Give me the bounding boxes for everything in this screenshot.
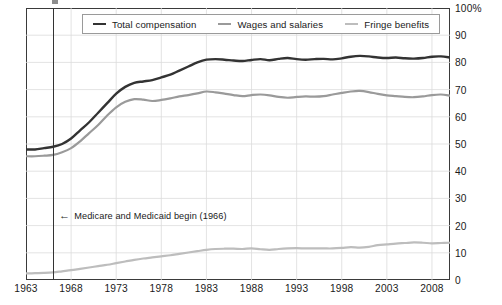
chart-container: ← Medicare and Medicaid begin (1966) Tot… (0, 0, 502, 305)
y-axis-tick-label: 20 (455, 220, 467, 231)
y-axis-tick-labels: 100%9080706050403020100 (455, 0, 502, 305)
annotation-label: Medicare and Medicaid begin (1966) (74, 211, 227, 221)
y-axis-tick-label: 70 (455, 84, 467, 95)
legend-swatch-icon (345, 23, 358, 25)
x-axis-tick-label: 1988 (240, 283, 263, 294)
y-axis-tick-label: 60 (455, 111, 467, 122)
y-axis-tick-label: 30 (455, 193, 467, 204)
y-axis-tick-label: 10 (455, 247, 467, 258)
x-axis-tick-label: 2008 (420, 283, 443, 294)
medicare-medicaid-marker-line (53, 8, 54, 280)
x-axis-tick-label: 1978 (150, 283, 173, 294)
y-axis-tick-label: 100% (455, 3, 482, 14)
legend-label: Fringe benefits (364, 19, 429, 30)
x-axis-tick-label: 1983 (195, 283, 218, 294)
y-axis-tick-label: 90 (455, 30, 467, 41)
legend-item-total-compensation[interactable]: Total compensation (93, 19, 196, 30)
y-axis-tick-label: 40 (455, 166, 467, 177)
legend-label: Total compensation (112, 19, 196, 30)
legend-swatch-icon (93, 23, 106, 25)
medicare-medicaid-annotation: ← Medicare and Medicaid begin (1966) (59, 210, 227, 221)
legend-label: Wages and salaries (237, 19, 323, 30)
x-axis-tick-label: 2003 (375, 283, 398, 294)
chart-legend: Total compensation Wages and salaries Fr… (82, 14, 440, 34)
y-axis-tick-label: 0 (455, 275, 461, 286)
legend-item-fringe-benefits[interactable]: Fringe benefits (345, 19, 429, 30)
left-arrow-icon: ← (59, 210, 70, 221)
y-axis-tick-label: 80 (455, 57, 467, 68)
plot-area-frame (26, 8, 450, 280)
legend-item-wages-and-salaries[interactable]: Wages and salaries (218, 19, 323, 30)
x-axis-tick-labels: 1963196819731978198319881993199820032008 (0, 283, 502, 303)
x-axis-tick-label: 1963 (14, 283, 37, 294)
x-axis-tick-label: 1973 (104, 283, 127, 294)
x-axis-tick-label: 1968 (59, 283, 82, 294)
x-axis-tick-label: 1993 (285, 283, 308, 294)
top-crop-artifact (52, 0, 58, 4)
legend-swatch-icon (218, 23, 231, 25)
y-axis-tick-label: 50 (455, 139, 467, 150)
x-axis-tick-label: 1998 (330, 283, 353, 294)
